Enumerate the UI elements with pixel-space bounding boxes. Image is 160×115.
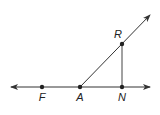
point-n	[120, 85, 124, 89]
label-a: A	[75, 91, 83, 103]
label-r: R	[114, 28, 122, 40]
geometry-diagram: F A N R	[0, 0, 160, 115]
label-n: N	[118, 91, 126, 103]
label-f: F	[39, 91, 47, 103]
point-f	[40, 85, 44, 89]
diagram-canvas: F A N R	[0, 0, 160, 115]
point-r	[120, 42, 124, 46]
ray-ar	[80, 15, 150, 87]
point-a	[78, 85, 82, 89]
